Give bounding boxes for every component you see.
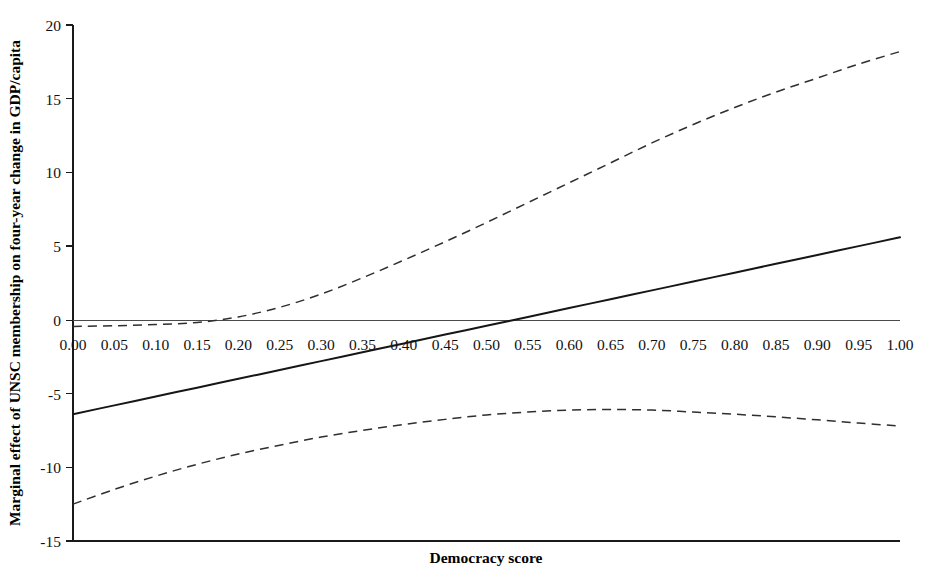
series-marginal-effect <box>73 237 900 414</box>
x-tick-label: 0.25 <box>266 336 293 353</box>
y-tick-label: 0 <box>53 312 61 329</box>
series-upper-confidence-bound <box>73 52 900 327</box>
y-axis-tick-labels: 20 15 10 5 0 -5 -10 -15 <box>40 17 61 550</box>
x-tick-label: 0.15 <box>184 336 211 353</box>
y-tick-label: 5 <box>53 238 61 255</box>
x-tick-label: 0.65 <box>597 336 624 353</box>
series-lower-confidence-bound <box>73 409 900 504</box>
y-tick-label: -15 <box>40 533 61 550</box>
chart-canvas: 20 15 10 5 0 -5 -10 -15 0.00 0.05 0.10 0… <box>0 0 927 577</box>
x-tick-label: 0.90 <box>804 336 831 353</box>
y-tick-label: -5 <box>48 386 61 403</box>
x-tick-label: 0.75 <box>680 336 707 353</box>
y-axis-title: Marginal effect of UNSC membership on fo… <box>6 40 23 526</box>
axes-group <box>73 25 900 541</box>
data-series-group <box>73 52 900 505</box>
x-axis-title: Democracy score <box>430 549 543 566</box>
x-tick-label: 0.55 <box>514 336 541 353</box>
x-tick-label: 0.85 <box>762 336 789 353</box>
x-tick-label: 0.00 <box>59 336 86 353</box>
x-tick-label: 1.00 <box>886 336 913 353</box>
x-tick-label: 0.95 <box>845 336 872 353</box>
x-tick-label: 0.70 <box>638 336 665 353</box>
y-tick-label: 10 <box>46 164 62 181</box>
x-tick-label: 0.45 <box>432 336 459 353</box>
x-tick-label: 0.80 <box>721 336 748 353</box>
y-tick-label: 15 <box>46 91 62 108</box>
x-tick-label: 0.10 <box>142 336 169 353</box>
y-tick-label: 20 <box>46 17 62 34</box>
x-tick-label: 0.50 <box>473 336 500 353</box>
y-tick-label: -10 <box>40 459 61 476</box>
x-tick-label: 0.05 <box>101 336 128 353</box>
x-tick-label: 0.60 <box>556 336 583 353</box>
marginal-effect-chart-figure: 20 15 10 5 0 -5 -10 -15 0.00 0.05 0.10 0… <box>0 0 927 577</box>
x-tick-label: 0.20 <box>225 336 252 353</box>
x-tick-label: 0.30 <box>308 336 335 353</box>
x-axis-tick-labels: 0.00 0.05 0.10 0.15 0.20 0.25 0.30 0.35 … <box>59 336 913 353</box>
y-axis-ticks <box>66 25 73 541</box>
